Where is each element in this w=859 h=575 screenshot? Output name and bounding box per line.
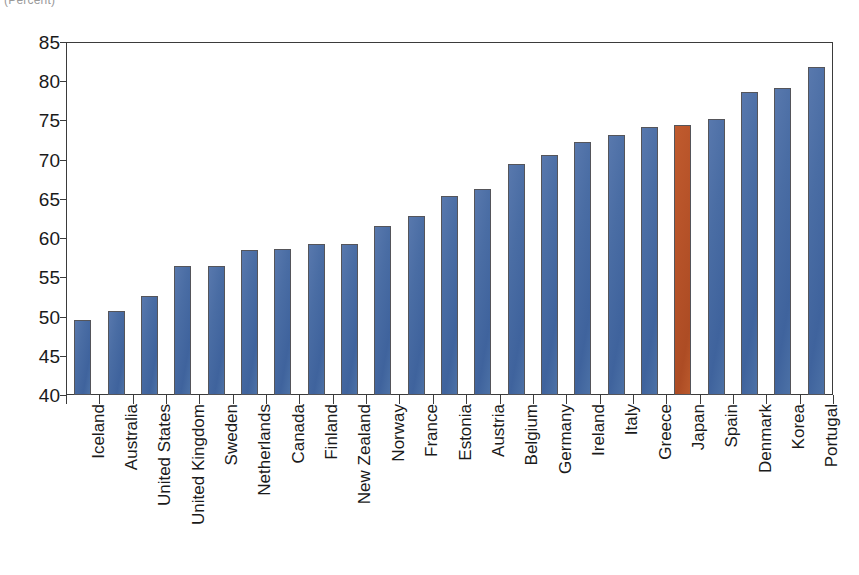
- bar-portugal: [808, 67, 825, 395]
- x-tick-label-text: United States: [156, 404, 173, 506]
- bar-new-zealand: [341, 244, 358, 395]
- x-tick-label-text: Ireland: [590, 404, 607, 456]
- x-tick-mark: [666, 395, 667, 404]
- x-tick-mark: [633, 395, 634, 404]
- x-tick-label: Korea: [790, 404, 807, 449]
- x-tick-label-text: Sweden: [223, 404, 240, 465]
- x-tick-mark: [733, 395, 734, 404]
- x-tick-mark: [133, 395, 134, 404]
- x-tick-label: Sweden: [223, 404, 240, 465]
- y-tick-label: 45: [4, 346, 60, 365]
- y-tick-label: 75: [4, 111, 60, 130]
- x-tick-label: France: [423, 404, 440, 457]
- x-tick-label: Finland: [323, 404, 340, 460]
- x-tick-label: Ireland: [590, 404, 607, 456]
- x-tick-label: United Kingdom: [190, 404, 207, 525]
- bar-canada: [274, 249, 291, 395]
- bar-ireland: [574, 142, 591, 395]
- y-tick-label: 55: [4, 268, 60, 287]
- bar-greece: [641, 127, 658, 395]
- bar-iceland: [74, 320, 91, 395]
- bars-layer: [66, 42, 833, 395]
- y-tick-label: 70: [4, 150, 60, 169]
- x-tick-mark: [833, 395, 834, 404]
- y-tick-label: 40: [4, 386, 60, 405]
- bar-belgium: [508, 164, 525, 395]
- x-tick-label: Netherlands: [256, 404, 273, 496]
- bar-germany: [541, 155, 558, 395]
- x-tick-label: Italy: [623, 404, 640, 435]
- x-tick-label-text: Germany: [557, 404, 574, 474]
- x-tick-label: Austria: [490, 404, 507, 457]
- bar-denmark: [741, 92, 758, 395]
- x-tick-label-text: Denmark: [757, 404, 774, 473]
- x-tick-mark: [566, 395, 567, 404]
- x-axis-ticks: [66, 395, 833, 404]
- bar-estonia: [441, 196, 458, 395]
- x-axis-labels: IcelandAustraliaUnited StatesUnited King…: [66, 404, 833, 575]
- x-tick-label-text: Iceland: [90, 404, 107, 459]
- x-tick-label-text: Belgium: [523, 404, 540, 465]
- x-tick-mark: [466, 395, 467, 404]
- x-tick-label: Iceland: [90, 404, 107, 459]
- x-tick-label-text: Norway: [390, 404, 407, 462]
- bar-spain: [708, 119, 725, 395]
- x-tick-mark: [766, 395, 767, 404]
- x-tick-label-text: Portugal: [823, 404, 840, 467]
- x-tick-mark: [99, 395, 100, 404]
- x-tick-label: New Zealand: [356, 404, 373, 504]
- x-tick-label: Canada: [290, 404, 307, 464]
- y-tick-label: 85: [4, 33, 60, 52]
- x-tick-label-text: Estonia: [457, 404, 474, 461]
- bar-korea: [774, 88, 791, 395]
- x-tick-label-text: Greece: [657, 404, 674, 460]
- x-tick-label: Belgium: [523, 404, 540, 465]
- bar-norway: [374, 226, 391, 395]
- x-tick-label: United States: [156, 404, 173, 506]
- bar-france: [408, 216, 425, 395]
- y-axis: 40455055606570758085: [0, 0, 60, 575]
- y-tick-label: 65: [4, 189, 60, 208]
- bar-united-states: [141, 296, 158, 395]
- x-tick-mark: [500, 395, 501, 404]
- x-tick-mark: [166, 395, 167, 404]
- bar-sweden: [208, 266, 225, 395]
- x-tick-label-text: United Kingdom: [190, 404, 207, 525]
- x-tick-mark: [199, 395, 200, 404]
- x-tick-mark: [266, 395, 267, 404]
- bar-finland: [308, 244, 325, 395]
- x-tick-label: Australia: [123, 404, 140, 470]
- x-tick-mark: [66, 395, 67, 404]
- x-tick-label-text: Japan: [690, 404, 707, 450]
- bar-netherlands: [241, 250, 258, 395]
- x-tick-mark: [366, 395, 367, 404]
- x-tick-label: Denmark: [757, 404, 774, 473]
- x-tick-mark: [800, 395, 801, 404]
- x-tick-label-text: Australia: [123, 404, 140, 470]
- x-tick-label-text: Netherlands: [256, 404, 273, 496]
- x-tick-label-text: Italy: [623, 404, 640, 435]
- y-tick-label: 60: [4, 229, 60, 248]
- x-tick-label: Japan: [690, 404, 707, 450]
- x-tick-label: Norway: [390, 404, 407, 462]
- x-tick-label-text: Austria: [490, 404, 507, 457]
- bar-united-kingdom: [174, 266, 191, 395]
- x-tick-label: Spain: [723, 404, 740, 447]
- x-tick-label: Estonia: [457, 404, 474, 461]
- x-tick-label-text: New Zealand: [356, 404, 373, 504]
- x-tick-label-text: Canada: [290, 404, 307, 464]
- bar-italy: [608, 135, 625, 395]
- x-tick-label: Germany: [557, 404, 574, 474]
- x-tick-mark: [533, 395, 534, 404]
- bar-japan: [674, 125, 691, 395]
- x-tick-mark: [700, 395, 701, 404]
- bar-australia: [108, 311, 125, 395]
- y-tick-label: 50: [4, 307, 60, 326]
- bar-austria: [474, 189, 491, 395]
- x-tick-label-text: Korea: [790, 404, 807, 449]
- bar-chart: (Percent) 40455055606570758085 IcelandAu…: [0, 0, 859, 575]
- x-tick-label: Greece: [657, 404, 674, 460]
- y-tick-label: 80: [4, 72, 60, 91]
- x-tick-label-text: Finland: [323, 404, 340, 460]
- x-tick-label-text: France: [423, 404, 440, 457]
